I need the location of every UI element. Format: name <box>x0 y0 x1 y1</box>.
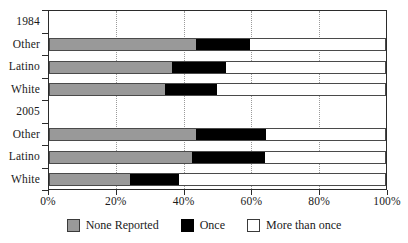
x-axis-tick-label: 100% <box>373 194 401 208</box>
bar-segment-more-than-once <box>217 83 386 96</box>
bar-segment-none-reported <box>49 38 196 51</box>
bar-segment-once <box>196 38 250 51</box>
bar-segment-more-than-once <box>250 38 386 51</box>
bar-segment-once <box>130 173 179 186</box>
bar-segment-once <box>196 128 267 141</box>
bar-segment-once <box>192 151 264 164</box>
y-axis-category-label: White <box>11 173 40 185</box>
y-axis-category-label: Latino <box>9 150 40 162</box>
bar-1984-other <box>49 38 386 51</box>
legend-swatch-more-than-once-icon <box>247 219 260 232</box>
x-axis-tick-label: 0% <box>40 194 56 208</box>
x-axis-tick-label: 20% <box>105 194 127 208</box>
x-axis-tick-label: 80% <box>308 194 330 208</box>
bar-segment-once <box>172 61 226 74</box>
legend-label: None Reported <box>86 219 159 232</box>
legend-swatch-none-reported-icon <box>67 219 80 232</box>
bar-1984-latino <box>49 61 386 74</box>
y-axis-group-label: 1984 <box>16 15 40 27</box>
bar-segment-none-reported <box>49 128 196 141</box>
bar-segment-more-than-once <box>179 173 386 186</box>
y-axis-labels: 1984OtherLatinoWhite2005OtherLatinoWhite <box>0 10 45 190</box>
legend-item-once[interactable]: Once <box>181 219 225 232</box>
legend-swatch-once-icon <box>181 219 194 232</box>
plot-area <box>48 10 387 190</box>
y-axis-group-label: 2005 <box>16 105 40 117</box>
bar-segment-none-reported <box>49 151 192 164</box>
chart-legend: None ReportedOnceMore than once <box>0 214 408 236</box>
legend-label: More than once <box>266 219 341 232</box>
bar-segment-more-than-once <box>266 128 386 141</box>
bar-2005-latino <box>49 151 386 164</box>
bar-segment-none-reported <box>49 173 130 186</box>
bar-segment-more-than-once <box>265 151 386 164</box>
legend-item-more-than-once[interactable]: More than once <box>247 219 341 232</box>
x-axis-tick-label: 40% <box>173 194 195 208</box>
x-axis-labels: 0%20%40%60%80%100% <box>48 194 387 210</box>
y-axis-category-label: Other <box>13 38 40 50</box>
bar-segment-more-than-once <box>226 61 386 74</box>
bar-1984-white <box>49 83 386 96</box>
x-axis-tick-label: 60% <box>241 194 263 208</box>
bar-segment-once <box>165 83 217 96</box>
bar-2005-other <box>49 128 386 141</box>
y-axis-category-label: Other <box>13 128 40 140</box>
legend-item-none-reported[interactable]: None Reported <box>67 219 159 232</box>
y-axis-category-label: White <box>11 83 40 95</box>
legend-label: Once <box>200 219 225 232</box>
bar-segment-none-reported <box>49 83 165 96</box>
bar-segment-none-reported <box>49 61 172 74</box>
y-axis-category-label: Latino <box>9 60 40 72</box>
bar-2005-white <box>49 173 386 186</box>
stacked-bar-chart: 1984OtherLatinoWhite2005OtherLatinoWhite… <box>0 0 408 243</box>
